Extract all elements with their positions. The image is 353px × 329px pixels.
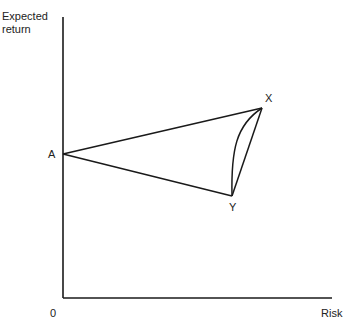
- origin-label: 0: [50, 307, 56, 320]
- line-a-to-y: [63, 154, 232, 196]
- y-axis-label-line1: Expected: [2, 10, 48, 23]
- point-x-label: X: [265, 92, 272, 105]
- point-a-label: A: [48, 148, 55, 161]
- y-axis-label-line2: return: [2, 23, 31, 36]
- x-axis-label: Risk: [321, 307, 342, 320]
- point-y-label: Y: [229, 201, 236, 214]
- line-a-to-x: [63, 108, 262, 154]
- risk-return-diagram: [0, 0, 353, 329]
